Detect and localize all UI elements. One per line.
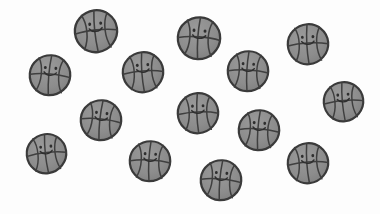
basketball-icon [197,156,245,204]
basketball-icon [77,96,125,144]
counting-scene-canvas [0,0,380,214]
basketball-icon [22,129,69,176]
basketball-icon [26,51,74,99]
basketball-icon [236,107,283,154]
basketball-icon [175,90,221,136]
basketball-icon [285,21,331,67]
basketball-icon [120,49,167,96]
basketball-icon [320,78,367,125]
basketball-icon [225,48,271,94]
basketball-icon [285,140,332,187]
basketball-icon [71,6,122,57]
basketball-icon [174,13,223,62]
basketball-icon [127,138,173,184]
